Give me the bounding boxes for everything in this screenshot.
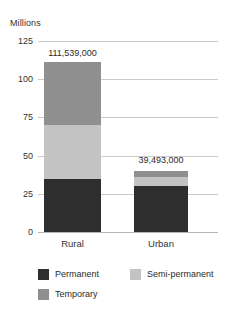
legend-row-1: Permanent Semi-permanent (38, 264, 223, 284)
bar-total-label-rural: 111,539,000 (48, 48, 97, 58)
legend-item-permanent[interactable]: Permanent (38, 269, 130, 280)
chart-legend: Permanent Semi-permanent Temporary (38, 264, 223, 304)
legend-label-permanent: Permanent (55, 269, 99, 279)
legend-swatch-permanent (38, 269, 49, 280)
legend-swatch-semi-permanent (130, 269, 141, 280)
y-tick-label-0: 0 (28, 227, 33, 237)
legend-item-temporary[interactable]: Temporary (38, 289, 130, 300)
y-tick-label-100: 100 (18, 74, 33, 84)
legend-label-semi-permanent: Semi-permanent (147, 269, 214, 279)
bar-stack-urban (134, 171, 188, 232)
bar-stack-rural (44, 62, 101, 233)
bar-segment-rural-temporary[interactable] (44, 62, 101, 126)
y-tick-label-75: 75 (23, 112, 33, 122)
legend-swatch-temporary (38, 289, 49, 300)
bar-segment-rural-semi-permanent[interactable] (44, 125, 101, 179)
y-axis-unit-label: Millions (10, 18, 41, 28)
bar-group-urban[interactable]: 39,493,000 Urban (134, 38, 188, 232)
legend-row-2: Temporary (38, 284, 223, 304)
y-tick-label-25: 25 (23, 189, 33, 199)
y-tick-label-125: 125 (18, 36, 33, 46)
bar-segment-rural-permanent[interactable] (44, 179, 101, 233)
bar-total-label-urban: 39,493,000 (138, 155, 183, 165)
category-label-rural: Rural (61, 238, 84, 249)
legend-label-temporary: Temporary (55, 289, 98, 299)
category-label-urban: Urban (148, 238, 174, 249)
bar-segment-urban-semi-permanent[interactable] (134, 177, 188, 186)
plot-area: 125 100 75 50 25 0 111,539,000 Rural (38, 38, 218, 232)
gridline-0-baseline: 0 (38, 232, 218, 233)
bar-group-rural[interactable]: 111,539,000 Rural (44, 38, 101, 232)
bar-segment-urban-permanent[interactable] (134, 186, 188, 232)
y-tick-label-50: 50 (23, 151, 33, 161)
legend-item-semi-permanent[interactable]: Semi-permanent (130, 269, 214, 280)
stacked-bar-chart: Millions 125 100 75 50 25 0 111,539,000 (0, 0, 229, 313)
